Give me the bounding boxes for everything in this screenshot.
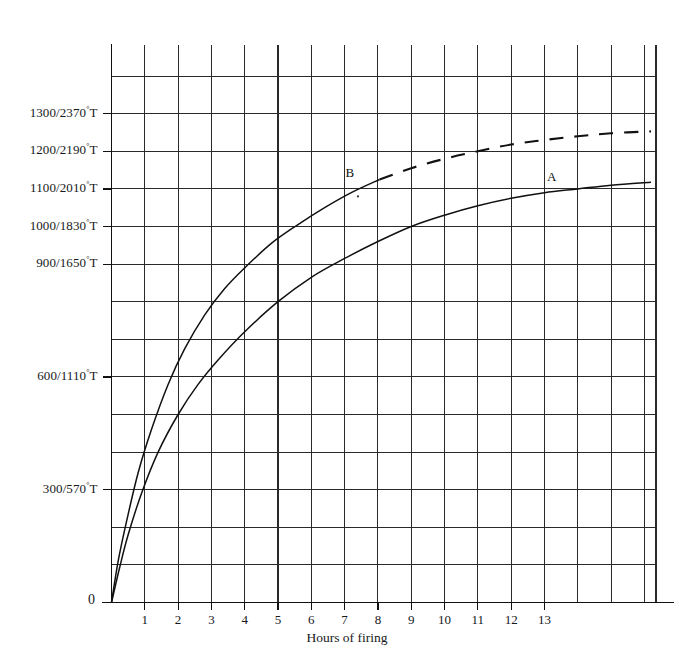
- curve-label-a: A: [547, 169, 556, 185]
- x-tick-label-5: 5: [264, 612, 292, 628]
- y-tick-label-1000: 1000/1830°T: [0, 218, 98, 234]
- x-tick-label-10: 10: [431, 612, 459, 628]
- y-tick-label-300: 300/570°T: [0, 481, 98, 497]
- y-tick-label-1100: 1100/2010°T: [0, 180, 98, 196]
- x-tick-label-11: 11: [464, 612, 492, 628]
- x-tick-label-1: 1: [131, 612, 159, 628]
- grid-lines: [112, 45, 657, 603]
- x-tick-label-12: 12: [497, 612, 525, 628]
- x-tick-label-4: 4: [231, 612, 259, 628]
- curve-a: [112, 182, 652, 602]
- x-tick-label-3: 3: [197, 612, 225, 628]
- axis-lines: [102, 44, 675, 603]
- scan-speck: [357, 195, 359, 197]
- y-tick-label-900: 900/1650°T: [0, 255, 98, 271]
- curve-b: [112, 180, 380, 603]
- x-tick-label-7: 7: [331, 612, 359, 628]
- data-curves: [112, 131, 652, 602]
- x-axis-title: Hours of firing: [307, 630, 388, 646]
- x-tick-label-2: 2: [164, 612, 192, 628]
- x-tick-label-13: 13: [530, 612, 558, 628]
- y-tick-label-600: 600/1110°T: [0, 368, 98, 384]
- x-tick-label-8: 8: [364, 612, 392, 628]
- temperature-firing-chart: 300/570°T600/1110°T900/1650°T1000/1830°T…: [0, 0, 679, 668]
- x-tick-label-6: 6: [297, 612, 325, 628]
- origin-label: 0: [88, 592, 95, 608]
- y-tick-label-1200: 1200/2190°T: [0, 142, 98, 158]
- curve-b-extension: [380, 131, 651, 179]
- x-tick-label-9: 9: [397, 612, 425, 628]
- curve-label-b: B: [346, 165, 355, 181]
- y-tick-label-1300: 1300/2370°T: [0, 105, 98, 121]
- chart-canvas: [0, 0, 679, 668]
